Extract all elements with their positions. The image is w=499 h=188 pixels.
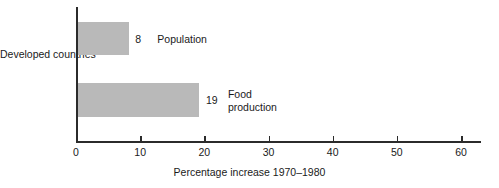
x-tick-label-50: 50 [391,146,403,158]
x-axis-title: Percentage increase 1970–1980 [0,166,499,179]
x-tick-label-10: 10 [134,146,146,158]
x-tick-label-60: 60 [455,146,467,158]
value-label-population: 8 [135,33,141,45]
x-tick-10 [140,136,142,142]
series-label-food-production: Food production [228,88,277,113]
x-tick-label-30: 30 [263,146,275,158]
x-tick-label-0: 0 [73,146,79,158]
bar-food-production [78,83,200,117]
category-axis-label: Developed countries [0,48,68,61]
x-axis-line [76,141,481,143]
x-tick-label-40: 40 [327,146,339,158]
x-tick-60 [461,136,463,142]
x-tick-20 [204,136,206,142]
x-tick-40 [333,136,335,142]
value-label-food-production: 19 [206,94,218,106]
x-tick-50 [397,136,399,142]
bar-population [78,22,129,55]
x-tick-30 [269,136,271,142]
x-tick-0 [76,136,78,142]
bar-chart: Developed countries 8 Population 19 Food… [0,0,499,188]
series-label-population: Population [157,33,207,46]
plot-area: 8 Population 19 Food production 01020304… [76,7,481,142]
x-tick-label-20: 20 [198,146,210,158]
